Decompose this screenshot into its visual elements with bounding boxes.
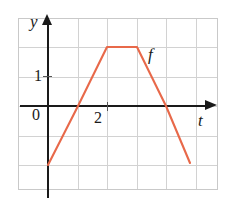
function-label-f: f	[148, 46, 153, 63]
y-tick-label-1: 1	[34, 68, 42, 84]
curve-polyline	[48, 47, 190, 165]
x-tick-label-2: 2	[94, 110, 102, 126]
graph-figure: y t 1 0 2 f	[0, 0, 236, 200]
t-axis-label: t	[198, 112, 203, 129]
origin-label: 0	[32, 107, 40, 123]
y-axis-label: y	[30, 13, 38, 30]
